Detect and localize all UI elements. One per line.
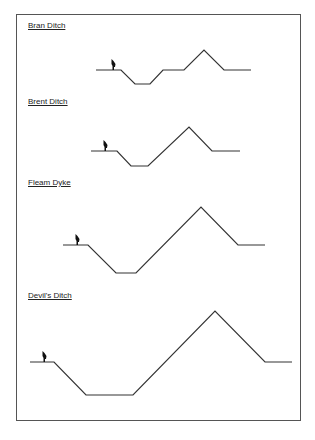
person-scale-icon: [43, 351, 47, 362]
person-scale-icon: [76, 234, 80, 245]
profile-line-devil-s-ditch: [30, 311, 292, 395]
person-scale-icon: [104, 140, 108, 151]
profile-line-brent-ditch: [91, 127, 240, 166]
person-scale-icon: [112, 59, 116, 70]
profile-line-fleam-dyke: [63, 207, 265, 273]
profiles-canvas: [0, 0, 315, 440]
profile-line-bran-ditch: [96, 50, 251, 84]
